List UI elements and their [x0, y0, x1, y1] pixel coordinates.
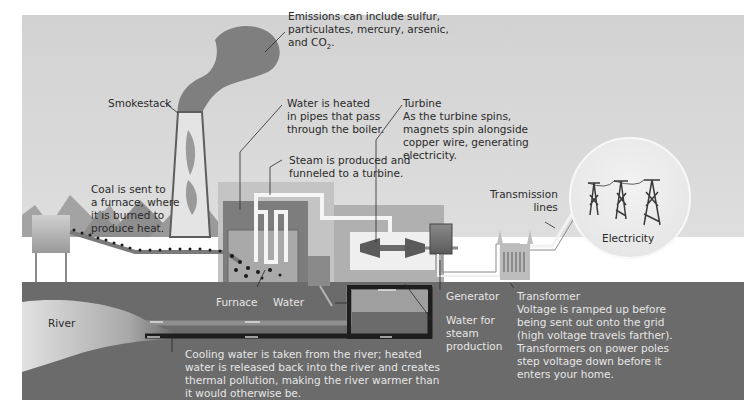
generator-label: Generator: [446, 290, 499, 303]
emissions-label: Emissions can include sulfur, particulat…: [288, 10, 449, 54]
turbine-title: Turbine: [403, 97, 442, 110]
transformer-description: Voltage is ramped up before being sent o…: [517, 303, 673, 381]
river-label: River: [48, 317, 75, 330]
generator: [430, 224, 452, 254]
steam-label: Steam is produced and funneled to a turb…: [289, 154, 410, 180]
transmission-lines-label: Transmission lines: [490, 188, 558, 214]
transformer-title: Transformer: [517, 290, 580, 303]
transformer: [497, 230, 533, 280]
water-label: Water: [273, 296, 304, 309]
furnace-label: Furnace: [216, 296, 258, 309]
cooling-water-label: Cooling water is taken from the river; h…: [185, 348, 440, 400]
water-heated-label: Water is heated in pipes that pass throu…: [287, 97, 384, 136]
coal-silo: [32, 215, 70, 253]
smokestack-label: Smokestack: [108, 97, 171, 110]
electricity-label: Electricity: [602, 232, 654, 245]
condenser: [352, 290, 428, 312]
power-plant-diagram: Emissions can include sulfur, particulat…: [0, 0, 744, 408]
turbine-description: As the turbine spins, magnets spin along…: [403, 110, 529, 162]
water-for-steam-label: Water for steam production: [446, 314, 502, 353]
coal-label: Coal is sent to a furnace, where it is b…: [91, 183, 180, 235]
